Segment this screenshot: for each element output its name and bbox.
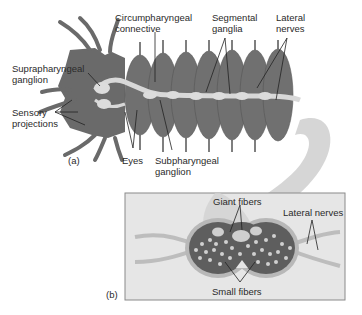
label-subpharyngeal-ganglion: Subpharyngealganglion [155, 155, 219, 177]
label-suprapharyngeal-ganglion: Suprapharyngealganglion [12, 63, 84, 85]
panel-a-tag: (a) [68, 155, 80, 166]
label-circumpharyngeal-connective: Circumpharyngealconnective [115, 12, 192, 34]
subpharyngeal-ganglion [97, 99, 111, 109]
worm-body [40, 18, 293, 160]
label-sensory-projections: Sensoryprojections [12, 107, 58, 129]
label-lateral-nerves-a: Lateralnerves [276, 12, 305, 34]
suprapharyngeal-ganglion [94, 82, 110, 94]
label-lateral-nerves-b: Lateral nerves [283, 207, 343, 218]
label-eyes: Eyes [122, 155, 143, 166]
panel-b-tag: (b) [106, 289, 118, 300]
label-segmental-ganglia: Segmentalganglia [212, 12, 257, 34]
label-small-fibers: Small fibers [212, 286, 262, 297]
label-giant-fibers: Giant fibers [213, 196, 262, 207]
